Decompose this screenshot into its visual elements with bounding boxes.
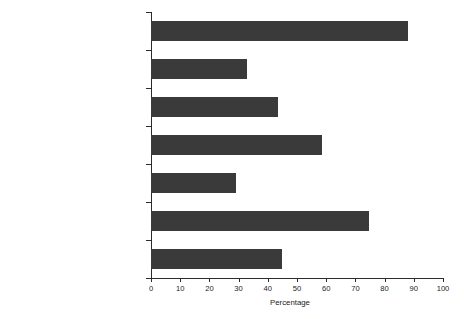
bar-row [151, 12, 443, 50]
x-axis-title: Percentage [0, 298, 464, 307]
bar-plans-incorporate-mdgs [151, 59, 247, 79]
bar-chart: Civic participation Plans of action for … [0, 0, 464, 319]
y-axis-tick [146, 50, 151, 51]
x-axis-tick [355, 278, 356, 282]
x-axis-tick-label: 70 [351, 284, 359, 293]
bar-national-intersectoral-committee [151, 173, 236, 193]
plot-area [151, 12, 443, 278]
x-axis-tick-label: 10 [176, 284, 184, 293]
bar-plans-of-action [151, 97, 278, 117]
bar-networks-advocating [151, 211, 369, 231]
x-axis-tick-label: 20 [205, 284, 213, 293]
bar-row [151, 240, 443, 278]
bar-row [151, 88, 443, 126]
y-axis-tick [146, 240, 151, 241]
x-axis-tick-label: 60 [322, 284, 330, 293]
x-axis-tick [385, 278, 386, 282]
x-axis-tick [180, 278, 181, 282]
x-axis-tick-label: 80 [380, 284, 388, 293]
bar-row [151, 164, 443, 202]
bar-row [151, 202, 443, 240]
bar-civic-participation [151, 21, 408, 41]
x-axis-tick [297, 278, 298, 282]
x-axis-tick [443, 278, 444, 282]
x-axis-tick [151, 278, 152, 282]
x-axis-title-text: Percentage [270, 298, 310, 307]
bar-surveillance-systems [151, 135, 322, 155]
x-axis-tick-label: 50 [293, 284, 301, 293]
bar-health-promotion-policy [151, 249, 282, 269]
bar-row [151, 126, 443, 164]
x-axis-tick-label: 100 [437, 284, 450, 293]
y-axis-tick [146, 164, 151, 165]
y-axis-tick [146, 126, 151, 127]
x-axis-tick-label: 30 [234, 284, 242, 293]
x-axis-tick-label: 0 [149, 284, 153, 293]
x-axis-tick [209, 278, 210, 282]
x-axis-tick [414, 278, 415, 282]
y-axis-tick [146, 88, 151, 89]
bar-row [151, 50, 443, 88]
x-axis-tick [268, 278, 269, 282]
y-axis-tick [146, 202, 151, 203]
x-axis-tick [239, 278, 240, 282]
y-axis-tick [146, 12, 151, 13]
x-axis-tick-label: 40 [264, 284, 272, 293]
x-axis-tick [326, 278, 327, 282]
x-axis-tick-label: 90 [410, 284, 418, 293]
